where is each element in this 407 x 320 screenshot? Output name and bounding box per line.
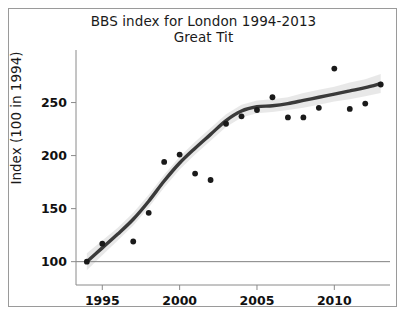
svg-text:2000: 2000 bbox=[162, 293, 197, 308]
plot-wrapper: 1001502002501995200020052010 bbox=[0, 0, 407, 320]
chart-svg: 1001502002501995200020052010 bbox=[0, 0, 407, 320]
svg-text:150: 150 bbox=[41, 201, 67, 216]
axis-tick-labels: 1001502002501995200020052010 bbox=[41, 95, 352, 308]
svg-text:2005: 2005 bbox=[240, 293, 275, 308]
svg-text:1995: 1995 bbox=[85, 293, 120, 308]
svg-text:100: 100 bbox=[41, 254, 67, 269]
svg-text:250: 250 bbox=[41, 95, 67, 110]
chart-figure: BBS index for London 1994-2013 Great Tit… bbox=[0, 0, 407, 320]
svg-text:200: 200 bbox=[41, 148, 67, 163]
svg-text:2010: 2010 bbox=[317, 293, 352, 308]
